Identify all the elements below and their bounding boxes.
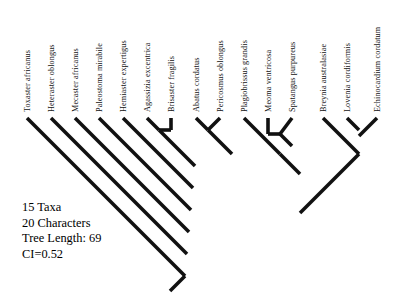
cladogram-figure: Toxaster africanusHeteraster oblongusMec… bbox=[0, 0, 403, 293]
branch-clade-meoma-spatangus-stem bbox=[280, 134, 292, 146]
stat-ci: CI=0.52 bbox=[22, 247, 101, 263]
branch-root-tail bbox=[170, 276, 185, 291]
taxon-label-spatangus-purpureus: Spatangus purpureus bbox=[289, 42, 297, 112]
taxon-label-toxaster-africanus: Toxaster africanus bbox=[24, 50, 32, 112]
taxon-label-pericosmus-oblongus: Pericosmus oblongus bbox=[217, 40, 225, 112]
taxon-label-mecaster-africanus: Mecaster africanus bbox=[72, 48, 80, 112]
taxon-label-hemiaster-expertigus: Hemiaster expertigus bbox=[120, 40, 128, 112]
stat-taxa-count: 15 Taxa bbox=[22, 200, 101, 216]
taxon-label-meoma-ventricosa: Meoma ventricosa bbox=[265, 50, 273, 112]
taxon-label-breynia-australasiae: Breynia australasiae bbox=[320, 44, 328, 112]
branch-clade-abatus-pericosmus-stem bbox=[208, 130, 232, 154]
branch-tip-abatus-cordatus bbox=[196, 118, 208, 130]
branch-tip-agassizia-excentrica bbox=[147, 118, 159, 130]
taxon-label-agassizia-excentrica: Agassizia excentrica bbox=[144, 42, 152, 112]
taxon-label-heteraster-oblongus: Heteraster oblongus bbox=[48, 44, 56, 112]
branch-clade-breynia-group-stem bbox=[300, 154, 359, 213]
taxon-label-echinocardium-cordatum: Echinocardium cordatum bbox=[374, 27, 382, 112]
branch-tip-paleostoma-mirabile bbox=[99, 118, 191, 210]
taxon-label-brisaster-fragilis: Brisaster fragilis bbox=[168, 56, 176, 112]
branch-tip-pericosmus-oblongus bbox=[208, 118, 220, 130]
branch-clade-plagiobrissus-group-stem bbox=[280, 154, 300, 174]
branch-tip-echinocardium-cordatum bbox=[359, 118, 377, 136]
branch-tip-lovenia-cordiformis bbox=[347, 118, 359, 130]
taxon-label-abatus-cordatus: Abatus cordatus bbox=[193, 58, 201, 112]
taxon-label-paleostoma-mirabile: Paleostoma mirabile bbox=[96, 43, 104, 112]
taxon-label-plagiobrissus-grandis: Plagiobrissus grandis bbox=[241, 40, 249, 112]
taxon-label-lovenia-cordiformis: Lovenia cordiformis bbox=[344, 43, 352, 112]
stat-tree-length: Tree Length: 69 bbox=[22, 231, 101, 247]
branch-tip-plagiobrissus-grandis bbox=[244, 118, 280, 154]
tree-statistics-block: 15 Taxa 20 Characters Tree Length: 69 CI… bbox=[22, 200, 101, 262]
stat-characters: 20 Characters bbox=[22, 216, 101, 232]
branch-tip-spatangus-purpureus bbox=[280, 118, 292, 134]
